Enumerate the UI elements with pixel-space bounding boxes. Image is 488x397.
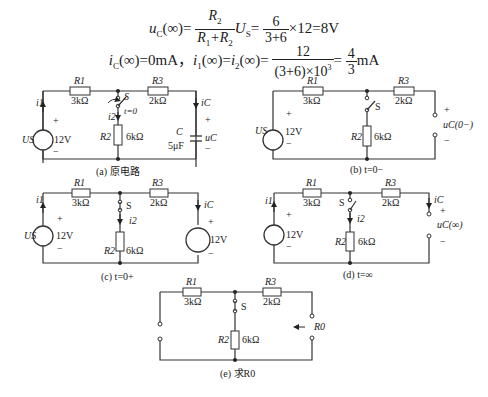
label-r1: R1 xyxy=(306,75,318,86)
label-uc-infinity: uC(∞) xyxy=(437,219,463,231)
label-r2: R2 xyxy=(334,236,346,247)
label-uc: uC xyxy=(205,132,217,143)
label-source-value: 12V xyxy=(54,134,72,145)
label-r3-value: 2kΩ xyxy=(263,296,280,307)
label-plus: + xyxy=(208,216,214,227)
label-switch-time: t=0 xyxy=(124,106,138,116)
label-r2-value: 6kΩ xyxy=(126,245,143,256)
label-source-value: 12V xyxy=(56,230,74,241)
label-plus: + xyxy=(53,115,59,126)
label-switch: S xyxy=(126,200,132,211)
label-r2: R2 xyxy=(103,245,115,256)
label-ic: iC xyxy=(204,199,214,210)
caption-d: (d) t=∞ xyxy=(343,269,373,281)
label-i1: i1 xyxy=(265,195,273,206)
resistor-r1 xyxy=(70,87,90,95)
label-r1-value: 3kΩ xyxy=(184,296,201,307)
label-r1-value: 3kΩ xyxy=(72,197,89,208)
label-r2-value: 6kΩ xyxy=(126,131,143,142)
label-minus: − xyxy=(286,138,292,149)
label-r2: R2 xyxy=(350,131,362,142)
label-r2-value: 6kΩ xyxy=(242,334,259,345)
caption-a: (a) 原电路 xyxy=(96,165,140,178)
label-i2: i2 xyxy=(129,215,137,226)
label-r1: R1 xyxy=(305,177,317,188)
label-minus: − xyxy=(57,243,63,254)
caption-e: (e) 求R0 xyxy=(220,368,255,380)
circuit-a-original: R1 3kΩ R3 2kΩ S t=0 R2 6kΩ US 12V + − i1… xyxy=(22,75,217,178)
label-minus: − xyxy=(53,146,59,157)
label-r1-value: 3kΩ xyxy=(71,95,88,106)
label-r3: R3 xyxy=(384,177,396,188)
label-source2-value: 12V xyxy=(210,234,228,245)
label-switch: S xyxy=(241,301,247,312)
label-r3: R3 xyxy=(151,177,163,188)
label-r3-value: 2kΩ xyxy=(149,95,166,106)
label-plus: + xyxy=(444,104,450,115)
label-ic: iC xyxy=(434,194,444,205)
label-r0: R0 xyxy=(313,321,325,332)
label-source: US xyxy=(255,125,267,136)
label-source-value: 12V xyxy=(285,126,303,137)
label-plus: + xyxy=(57,213,63,224)
caption-c: (c) t=0+ xyxy=(101,271,134,283)
label-r3-value: 2kΩ xyxy=(395,95,412,106)
label-r3: R3 xyxy=(397,75,409,86)
label-r2-value: 6kΩ xyxy=(374,131,391,142)
label-source: US xyxy=(22,134,34,145)
circuit-c-t0-plus: R1 3kΩ R3 2kΩ S i2 R2 6kΩ US 12V + − i1 … xyxy=(24,177,228,283)
label-plus: + xyxy=(440,205,446,216)
label-source-value: 12V xyxy=(286,229,304,240)
label-plus: + xyxy=(205,114,211,125)
circuit-e-find-r0: R1 3kΩ R3 2kΩ S R2 6kΩ R0 (e) 求R0 xyxy=(158,276,325,380)
label-i1: i1 xyxy=(36,97,44,108)
label-r3-value: 2kΩ xyxy=(382,197,399,208)
label-plus: + xyxy=(286,209,292,220)
label-r2-value: 6kΩ xyxy=(358,236,375,247)
circuit-b-t0-minus: R1 3kΩ R3 2kΩ S R2 6kΩ US 12V + − + uC(0… xyxy=(255,75,474,176)
label-i1: i1 xyxy=(36,194,44,205)
label-ic: iC xyxy=(201,97,211,108)
label-r2: R2 xyxy=(99,131,111,142)
circuit-d-t-infinity: R1 3kΩ R3 2kΩ S i2 R2 6kΩ 12V + − i1 iC … xyxy=(264,177,463,281)
resistor-r3 xyxy=(148,87,168,95)
label-capacitor-value: 5μF xyxy=(168,140,184,151)
label-minus: − xyxy=(440,236,446,247)
label-r3: R3 xyxy=(264,276,276,287)
label-i2: i2 xyxy=(357,213,365,224)
circuit-diagrams: R1 3kΩ R3 2kΩ S t=0 R2 6kΩ US 12V + − i1… xyxy=(0,0,488,397)
resistor-r2 xyxy=(114,125,122,145)
label-r1: R1 xyxy=(73,75,85,86)
label-minus: − xyxy=(205,143,211,154)
label-minus: − xyxy=(286,241,292,252)
label-r1: R1 xyxy=(185,276,197,287)
label-r3: R3 xyxy=(151,75,163,86)
label-source: US xyxy=(24,230,36,241)
label-switch: S xyxy=(375,101,381,112)
label-switch: S xyxy=(124,91,129,102)
label-r3-value: 2kΩ xyxy=(150,197,167,208)
label-r1-value: 3kΩ xyxy=(303,197,320,208)
label-uc-0minus: uC(0−) xyxy=(443,119,474,131)
label-r1-value: 3kΩ xyxy=(303,95,320,106)
voltage-source-us xyxy=(33,130,53,150)
caption-b: (b) t=0− xyxy=(350,164,384,176)
label-plus: + xyxy=(286,108,292,119)
label-minus: − xyxy=(444,135,450,146)
label-r1: R1 xyxy=(73,177,85,188)
label-capacitor: C xyxy=(176,126,183,137)
label-minus: − xyxy=(208,248,214,259)
label-r2: R2 xyxy=(217,334,229,345)
label-switch: S xyxy=(339,197,345,208)
label-i2: i2 xyxy=(108,111,116,122)
